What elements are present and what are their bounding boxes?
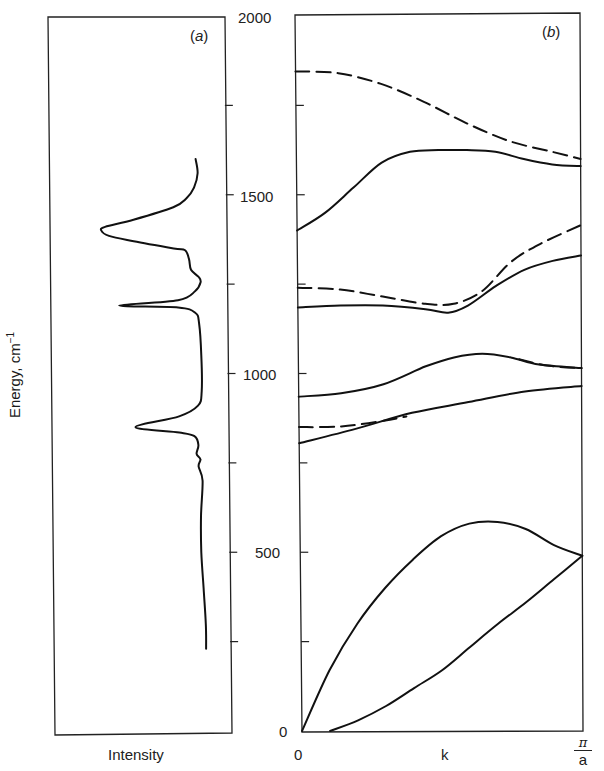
y-tick-1500: 1500	[240, 189, 273, 204]
panel-b-tag: (b)	[542, 24, 560, 39]
band-curve-1	[297, 150, 580, 231]
band-curve-0	[296, 71, 581, 159]
panel-a-tag: (a)	[190, 28, 208, 43]
y-axis-label: Energy, cm−1	[5, 332, 23, 418]
panel-a-spectrum	[101, 159, 206, 649]
x-tick-pi-over-a: π a	[572, 736, 594, 767]
x-tick-0: 0	[294, 747, 302, 762]
figure-canvas	[0, 0, 604, 771]
y-tick-500: 500	[255, 545, 280, 560]
band-curve-9	[330, 556, 582, 731]
y-tick-1000: 1000	[243, 367, 276, 382]
y-tick-2000: 2000	[238, 10, 271, 25]
band-curve-7	[299, 386, 581, 443]
panel-b-frame	[295, 13, 583, 732]
y-tick-0: 0	[279, 724, 287, 739]
band-curve-3	[298, 256, 581, 313]
panel-a-frame	[48, 17, 232, 735]
x-axis-label-k: k	[441, 747, 449, 762]
panel-b-dispersion-curves	[296, 71, 583, 731]
band-curve-5	[519, 359, 581, 368]
x-axis-label-intensity: Intensity	[108, 747, 164, 762]
band-curve-8	[302, 521, 582, 731]
